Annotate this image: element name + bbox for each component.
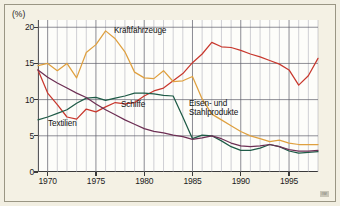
y-tick-mark [34, 27, 38, 28]
series-layer [38, 20, 318, 172]
x-tick-mark [192, 172, 193, 176]
y-tick-mark [34, 99, 38, 100]
y-tick-mark [34, 171, 38, 172]
x-tick-mark [240, 172, 241, 176]
x-tick-label: 1975 [79, 176, 113, 186]
y-tick-mark [34, 135, 38, 136]
y-tick-label: 5 [10, 131, 34, 141]
x-tick-label: 1980 [127, 176, 161, 186]
x-tick-label: 1970 [31, 176, 65, 186]
x-tick-label: 1985 [175, 176, 209, 186]
x-tick-label: 1990 [224, 176, 258, 186]
x-tick-mark [288, 172, 289, 176]
eisen-stahl-label-2: Stahlprodukte [189, 108, 238, 118]
series-line-textilien [38, 70, 318, 151]
y-tick-mark [34, 63, 38, 64]
y-tick-label: 15 [10, 58, 34, 68]
chart-figure: (%) 05101520197019751980198519901995 Kra… [0, 0, 340, 206]
x-tick-mark [47, 172, 48, 176]
schiffe-label: Schiffe [121, 100, 145, 110]
source-mark: IW [320, 191, 330, 197]
textilien-label: Textilien [48, 119, 77, 129]
y-tick-label: 10 [10, 95, 34, 105]
x-tick-label: 1995 [272, 176, 306, 186]
series-line-schiffe [38, 93, 318, 153]
kraftfahrzeuge-label: Kraftfahrzeuge [114, 26, 166, 36]
x-tick-mark [144, 172, 145, 176]
plot-area [38, 20, 318, 172]
y-tick-label: 20 [10, 22, 34, 32]
y-axis-unit-label: (%) [12, 9, 25, 19]
series-line-eisen-und-stahlprodukte [38, 31, 318, 145]
x-tick-mark [95, 172, 96, 176]
